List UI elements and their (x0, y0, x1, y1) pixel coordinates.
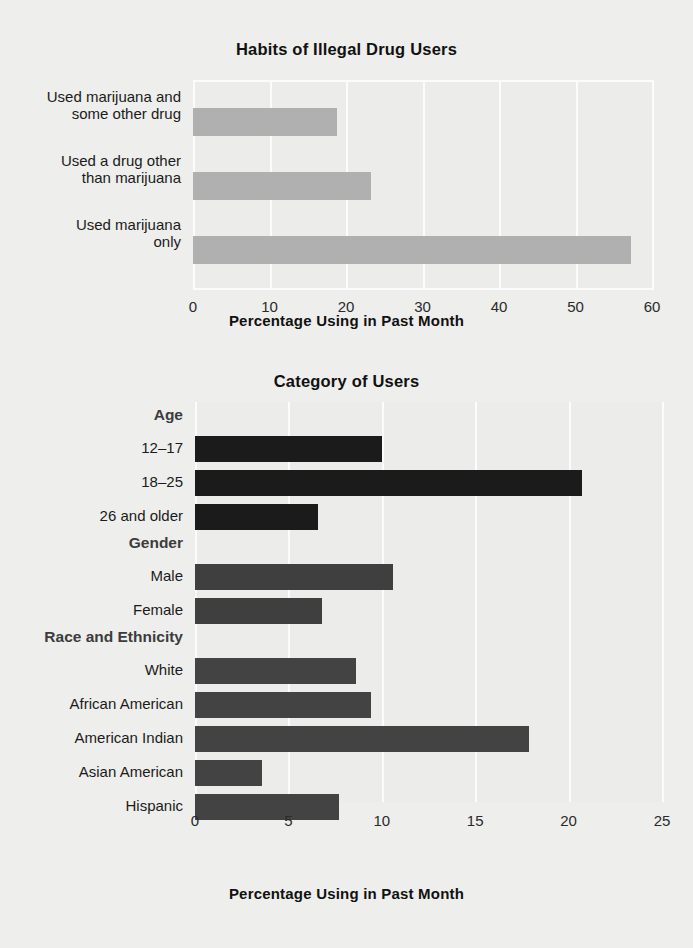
chart1-plot-top-rule (193, 80, 652, 82)
chart1-category-label: Used marijuana andsome other drug (0, 89, 181, 123)
chart2-plot-area: Age12–1718–2526 and olderGenderMaleFemal… (0, 402, 693, 832)
chart1-plot-bottom-rule (193, 288, 652, 290)
chart1-category-label: Used a drug otherthan marijuana (0, 153, 181, 187)
chart1-gridline (652, 80, 654, 290)
chart2-bar (195, 598, 322, 624)
chart2-bar (195, 726, 529, 752)
chart1-category-label-line: only (0, 234, 181, 251)
figure-canvas: Habits of Illegal Drug Users Used mariju… (0, 0, 693, 948)
chart2-bar (195, 760, 262, 786)
chart1-category-label-line: some other drug (0, 106, 181, 123)
chart2-x-tick-label: 0 (175, 812, 215, 829)
chart1-title: Habits of Illegal Drug Users (0, 40, 693, 59)
chart2-x-tick-label: 15 (455, 812, 495, 829)
chart1-plot-area: Used marijuana andsome other drugUsed a … (0, 80, 693, 290)
chart2-bar (195, 794, 339, 820)
chart1-category-label: Used marijuanaonly (0, 217, 181, 251)
chart2-group-label-age: Age (0, 406, 183, 424)
chart1-bar (193, 108, 337, 136)
chart2-category-label: 18–25 (0, 474, 183, 491)
chart1-bar (193, 172, 371, 200)
chart2-category-label: White (0, 662, 183, 679)
chart2-x-tick-label: 20 (549, 812, 589, 829)
chart2-category-label: 26 and older (0, 508, 183, 525)
chart2-bar (195, 470, 582, 496)
chart2-bar (195, 436, 382, 462)
chart2-x-tick-label: 5 (268, 812, 308, 829)
chart2-category-label: Hispanic (0, 798, 183, 815)
chart2-x-axis-title: Percentage Using in Past Month (0, 885, 693, 902)
chart2-category-label: Female (0, 602, 183, 619)
chart2-x-tick-label: 25 (642, 812, 682, 829)
chart2-bar (195, 692, 371, 718)
chart2-group-label-race-and-ethnicity: Race and Ethnicity (0, 628, 183, 646)
chart2-bar (195, 658, 356, 684)
chart-habits-of-illegal-drug-users: Habits of Illegal Drug Users Used mariju… (0, 40, 693, 350)
chart2-gridline (569, 402, 571, 802)
chart2-category-label: American Indian (0, 730, 183, 747)
chart1-category-label-line: Used a drug other (0, 153, 181, 170)
chart2-bar (195, 504, 318, 530)
chart2-category-label: Male (0, 568, 183, 585)
chart2-gridline (662, 402, 664, 802)
chart2-bar (195, 564, 393, 590)
chart2-category-label: African American (0, 696, 183, 713)
chart2-category-label: Asian American (0, 764, 183, 781)
chart-category-of-users: Category of Users Age12–1718–2526 and ol… (0, 372, 693, 932)
chart2-x-tick-label: 10 (362, 812, 402, 829)
chart1-category-label-line: Used marijuana (0, 217, 181, 234)
chart1-category-label-line: Used marijuana and (0, 89, 181, 106)
chart1-bar (193, 236, 631, 264)
chart2-title: Category of Users (0, 372, 693, 391)
chart1-category-label-line: than marijuana (0, 170, 181, 187)
chart1-x-axis-title: Percentage Using in Past Month (0, 312, 693, 329)
chart2-group-label-gender: Gender (0, 534, 183, 552)
chart2-category-label: 12–17 (0, 440, 183, 457)
